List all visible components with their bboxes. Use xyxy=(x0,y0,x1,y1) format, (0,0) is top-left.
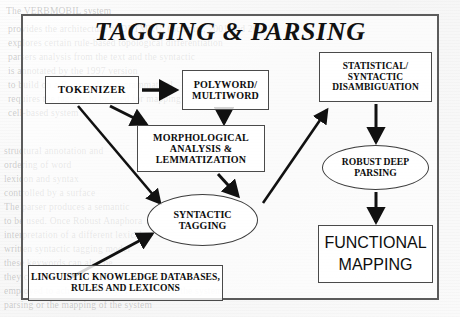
node-tokenizer-label: TOKENIZER xyxy=(58,84,126,96)
node-linguistic-knowledge-databases-label: LINGUISTIC KNOWLEDGE DATABASES,RULES AND… xyxy=(31,272,220,293)
node-polyword-multiword: POLYWORD/MULTIWORD xyxy=(182,70,269,110)
node-robust-deep-parsing-label: ROBUST DEEPPARSING xyxy=(342,157,409,178)
node-functional-mapping: FUNCTIONALMAPPING xyxy=(318,225,433,283)
node-statistical-syntactic-disambiguation: STATISTICAL/SYNTACTICDISAMBIGUATION xyxy=(319,52,432,102)
diagram-page: The VERBMOBIL systemprovides the archite… xyxy=(0,0,460,317)
node-polyword-multiword-label: POLYWORD/MULTIWORD xyxy=(192,79,259,101)
node-functional-mapping-label: FUNCTIONALMAPPING xyxy=(324,232,426,275)
diagram-title: TAGGING & PARSING xyxy=(21,17,439,47)
node-linguistic-knowledge-databases: LINGUISTIC KNOWLEDGE DATABASES,RULES AND… xyxy=(28,265,223,301)
node-robust-deep-parsing: ROBUST DEEPPARSING xyxy=(322,145,429,190)
node-syntactic-tagging: SYNTACTICTAGGING xyxy=(147,194,258,246)
node-morphological-analysis-label: MORPHOLOGICALANALYSIS &LEMMATIZATION xyxy=(153,132,249,166)
node-statistical-syntactic-disambiguation-label: STATISTICAL/SYNTACTICDISAMBIGUATION xyxy=(332,61,419,93)
node-syntactic-tagging-label: SYNTACTICTAGGING xyxy=(173,209,231,231)
node-tokenizer: TOKENIZER xyxy=(45,76,139,104)
background-text-line: parsing or the mapping of the system xyxy=(4,300,152,310)
node-morphological-analysis: MORPHOLOGICALANALYSIS &LEMMATIZATION xyxy=(137,125,265,172)
